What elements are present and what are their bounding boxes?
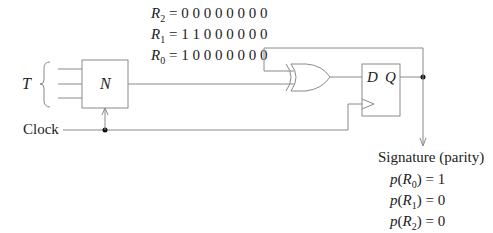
- svg-text:R1 = 1 1 0 0 0 0 0 0: R1 = 1 1 0 0 0 0 0 0: [150, 26, 267, 45]
- svg-text:p(R0) = 1: p(R0) = 1: [389, 171, 445, 190]
- svg-text:p(R2) = 0: p(R2) = 0: [389, 213, 445, 232]
- block-label-N: N: [99, 75, 112, 92]
- signature-item-R0: p(R0) = 1: [389, 171, 445, 190]
- d-input-label: D: [366, 69, 378, 85]
- xor-extra-arc: [286, 64, 291, 91]
- signature-item-R2: p(R2) = 0: [389, 213, 445, 232]
- clock-label: Clock: [23, 121, 59, 137]
- register-R2: R2 = 0 0 0 0 0 0 0 0: [150, 5, 267, 24]
- input-brace: [40, 62, 50, 107]
- svg-text:p(R1) = 0: p(R1) = 0: [389, 192, 445, 211]
- register-R0: R0 = 1 0 0 0 0 0 0 0: [150, 47, 267, 66]
- signature-title: Signature (parity): [378, 149, 484, 166]
- svg-text:R0 = 1 0 0 0 0 0 0 0: R0 = 1 0 0 0 0 0 0 0: [150, 47, 267, 66]
- register-R1: R1 = 1 1 0 0 0 0 0 0: [150, 26, 267, 45]
- svg-text:R2 = 0 0 0 0 0 0 0 0: R2 = 0 0 0 0 0 0 0 0: [150, 5, 267, 24]
- or-body: [291, 64, 330, 91]
- input-label-T: T: [22, 75, 32, 92]
- q-output-label: Q: [385, 69, 396, 85]
- parity-signature-circuit: R2 = 0 0 0 0 0 0 0 0 R1 = 1 1 0 0 0 0 0 …: [0, 0, 493, 233]
- signature-item-R1: p(R1) = 0: [389, 192, 445, 211]
- xor-gate: [286, 64, 330, 91]
